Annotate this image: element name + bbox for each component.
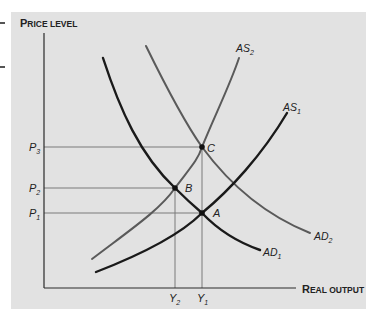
ad2-label: AD2 [313,230,333,244]
p2-label: P2 [29,182,40,196]
point-a-dot [199,210,205,216]
y2-label: Y2 [169,292,180,306]
y-axis-title: PRICE LEVEL [20,17,77,29]
p1-label: P1 [29,207,40,221]
y1-label: Y1 [197,292,208,306]
point-b-label: B [185,182,192,194]
p3-label: P3 [29,141,40,155]
ad1-label: AD1 [262,246,282,260]
point-c-label: C [207,142,215,154]
as-ad-chart: PRICE LEVEL REAL OUTPUT P3 P2 P1 Y2 Y1 A… [0,0,373,321]
guide-lines [44,147,202,288]
point-b-dot [172,185,178,191]
x-axis-title: REAL OUTPUT [302,283,365,295]
ad2-curve [146,46,310,233]
as1-label: AS1 [282,101,301,115]
ad1-curve [103,58,260,250]
point-a-label: A [212,207,220,219]
as2-label: AS2 [235,42,254,56]
point-c-dot [199,144,205,150]
